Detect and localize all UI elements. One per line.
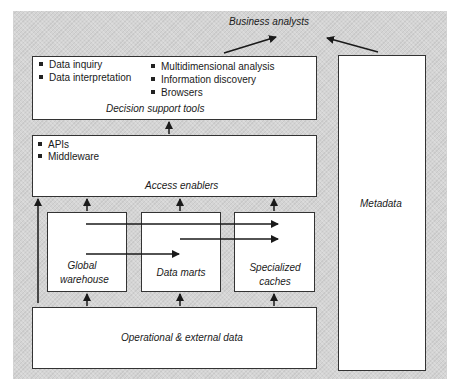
arrows-layer — [0, 0, 459, 391]
arrow-metadata-to-analysts — [327, 38, 378, 52]
arrow-dst-to-analysts — [224, 37, 276, 53]
